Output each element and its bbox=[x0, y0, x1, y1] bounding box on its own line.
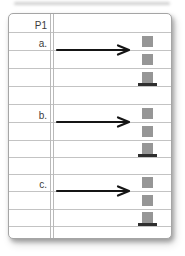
ruled-line bbox=[9, 174, 171, 175]
screenshot-root: P1 a. b. c. bbox=[0, 0, 185, 256]
block-square bbox=[142, 72, 153, 83]
ruled-line bbox=[9, 140, 171, 141]
ruled-line bbox=[9, 68, 171, 69]
notebook-page: P1 a. b. c. bbox=[8, 13, 172, 239]
block-square bbox=[142, 36, 153, 47]
item-label-a: a. bbox=[17, 38, 47, 50]
ground-base bbox=[138, 223, 157, 226]
block-square bbox=[142, 195, 153, 206]
ruled-line bbox=[9, 226, 171, 227]
margin-line bbox=[53, 14, 54, 238]
block-square bbox=[142, 126, 153, 137]
ruled-line bbox=[9, 32, 171, 33]
right-arrow-icon bbox=[55, 184, 135, 198]
item-label-b: b. bbox=[17, 110, 47, 122]
ruled-line bbox=[9, 104, 171, 105]
right-arrow-icon bbox=[55, 115, 135, 129]
page-title: P1 bbox=[17, 20, 47, 32]
ground-base bbox=[138, 154, 157, 157]
item-label-c: c. bbox=[17, 179, 47, 191]
ground-base bbox=[138, 83, 157, 86]
margin-line bbox=[50, 14, 51, 238]
block-square bbox=[142, 108, 153, 119]
ruled-line bbox=[9, 86, 171, 87]
block-square bbox=[142, 212, 153, 223]
right-arrow-icon bbox=[55, 43, 135, 57]
block-square bbox=[142, 54, 153, 65]
block-square bbox=[142, 143, 153, 154]
block-square bbox=[142, 177, 153, 188]
ruled-line bbox=[9, 157, 171, 158]
ruled-line bbox=[9, 209, 171, 210]
top-shadow bbox=[14, 2, 170, 5]
